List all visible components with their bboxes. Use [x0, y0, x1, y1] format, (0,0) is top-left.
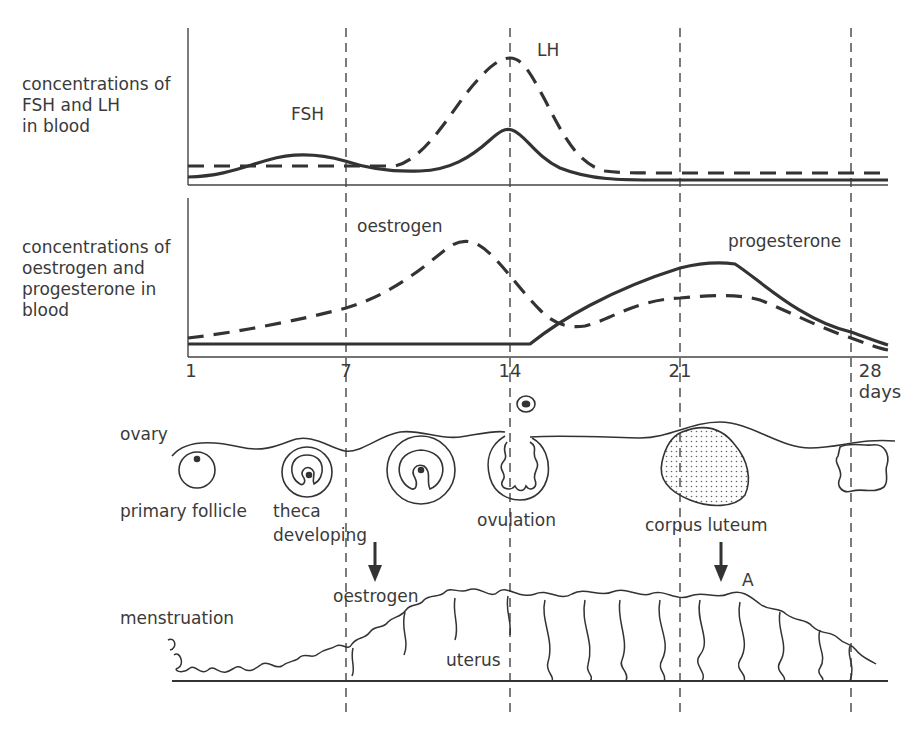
x-tick-14: 14 [499, 360, 522, 381]
ylabel-line: concentrations of [22, 237, 170, 258]
menstruation-label: menstruation [120, 608, 234, 628]
theca-follicle-icon [282, 447, 332, 497]
arrow-a-label: A [742, 570, 754, 590]
ylabel-line: progesterone in [22, 279, 170, 300]
primary-follicle-label: primary follicle [120, 501, 247, 521]
oestrogen-label: oestrogen [357, 216, 442, 236]
maturing-follicle-icon [387, 436, 455, 504]
developing-label: developing [273, 525, 367, 545]
ylabel-line: FSH and LH [22, 95, 170, 116]
ovary-label: ovary [120, 424, 168, 444]
primary-follicle-icon [179, 452, 215, 488]
fsh-label: FSH [291, 104, 324, 124]
lh-label: LH [537, 40, 559, 60]
x-tick-28: 28 days [859, 360, 901, 402]
corpus-albicans-icon [836, 444, 888, 491]
ylabel-line: oestrogen and [22, 258, 170, 279]
progesterone-label: progesterone [728, 231, 841, 251]
day-gridlines [346, 28, 851, 716]
corpus-luteum-label: corpus luteum [645, 515, 768, 535]
x-tick-7: 7 [340, 360, 351, 381]
ylabel-line: concentrations of [22, 74, 170, 95]
x-tick-21: 21 [669, 360, 692, 381]
oestrogen-arrow-label: oestrogen [333, 586, 418, 606]
corpus-luteum-icon [661, 428, 748, 506]
progesterone-curve [188, 263, 888, 345]
middle-panel-axes [188, 198, 888, 357]
down-arrow-a-icon [714, 542, 728, 582]
x-tick-1: 1 [185, 360, 196, 381]
ylabel-line: blood [22, 300, 170, 321]
ovulation-label: ovulation [477, 510, 556, 530]
uterus-label: uterus [446, 650, 501, 670]
top-panel-ylabel: concentrations of FSH and LH in blood [22, 74, 170, 137]
endometrium-lining [168, 589, 876, 672]
down-arrow-icon [368, 542, 382, 582]
middle-panel-ylabel: concentrations of oestrogen and progeste… [22, 237, 170, 321]
fsh-curve [188, 129, 888, 180]
ylabel-line: in blood [22, 116, 170, 137]
oestrogen-curve [188, 241, 888, 350]
endometrium-glands [352, 596, 852, 681]
ovulating-follicle-icon [488, 396, 548, 500]
theca-label: theca [273, 501, 321, 521]
